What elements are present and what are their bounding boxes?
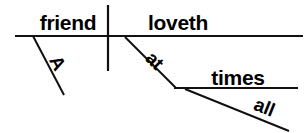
sentence-diagram-canvas: friend loveth A at times all [0, 0, 307, 133]
word-subject-friend: friend [40, 11, 97, 34]
reed-kellogg-diagram: friend loveth A at times all [0, 0, 307, 133]
word-verb-loveth: loveth [148, 11, 208, 34]
word-object-times: times [211, 66, 264, 89]
